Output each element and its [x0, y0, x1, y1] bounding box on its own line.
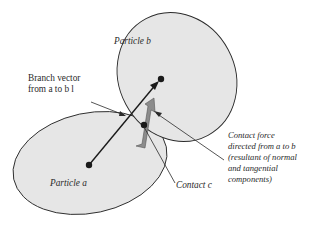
center-b-dot: [158, 76, 164, 82]
particle-b-label: Particle b: [114, 36, 151, 47]
contact-force-label-line3: (resultant of normal: [228, 152, 297, 162]
contact-force-label-line1: Contact force: [228, 130, 275, 140]
contact-force-label-line4: and tangential: [228, 163, 278, 173]
particle-a-label: Particle a: [50, 178, 87, 189]
center-a-dot: [86, 162, 92, 168]
contact-force-label-line5: components): [228, 174, 272, 184]
branch-vector-label-line1: Branch vector: [28, 73, 80, 84]
contact-force-label-line2: directed from a to b: [228, 141, 296, 151]
contact-label: Contact c: [176, 180, 212, 191]
branch-vector-label-line2: from a to b l: [28, 84, 74, 95]
